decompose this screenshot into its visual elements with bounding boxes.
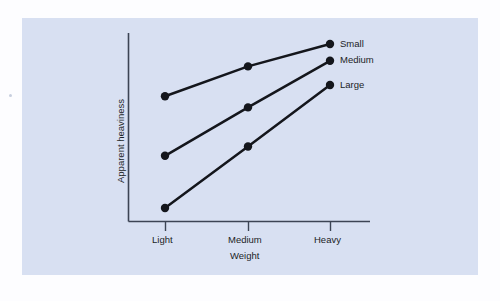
series-label-small: Small — [340, 39, 364, 49]
data-point-small-medium — [244, 62, 252, 70]
x-tick-label-light: Light — [152, 235, 173, 245]
y-axis-title: Apparent heaviness — [113, 75, 127, 185]
data-point-large-medium — [244, 142, 252, 150]
x-axis-title: Weight — [230, 251, 259, 261]
data-point-small-light — [161, 92, 169, 100]
data-point-medium-medium — [244, 103, 252, 111]
series-label-medium: Medium — [340, 55, 374, 65]
data-point-medium-light — [161, 152, 169, 160]
data-point-large-heavy — [326, 81, 334, 89]
data-point-medium-heavy — [326, 57, 334, 65]
data-point-small-heavy — [326, 40, 334, 48]
data-point-large-light — [161, 204, 169, 212]
series-label-large: Large — [340, 80, 364, 90]
figure-stage: Small Medium Large Light Medium Heavy We… — [0, 0, 500, 301]
x-tick-label-heavy: Heavy — [314, 235, 341, 245]
x-tick-label-medium: Medium — [228, 235, 262, 245]
y-axis-title-text: Apparent heaviness — [115, 99, 126, 183]
